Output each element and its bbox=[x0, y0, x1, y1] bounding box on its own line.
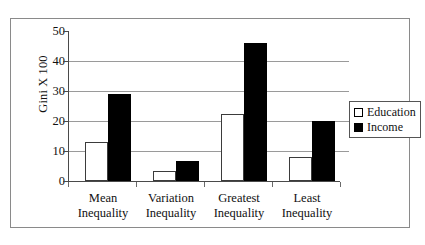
x-axis-category-labels: Mean Inequality Variation Inequality Gre… bbox=[69, 191, 341, 235]
chart-frame: Gini X 100 50 40 30 20 10 0 bbox=[10, 18, 410, 228]
category-label-line1: Variation bbox=[137, 191, 205, 206]
legend-item-income: Income bbox=[354, 120, 420, 135]
category-label-line2: Inequality bbox=[273, 206, 341, 221]
bar-education-least-inequality bbox=[289, 157, 312, 181]
category-label-line2: Inequality bbox=[69, 206, 137, 221]
plot-area bbox=[69, 31, 339, 181]
gridline-30 bbox=[69, 91, 340, 92]
category-label-line2: Inequality bbox=[205, 206, 273, 221]
y-tick-label-0: 0 bbox=[35, 175, 65, 187]
gridline-extension-40 bbox=[339, 61, 349, 62]
gridline-40 bbox=[69, 61, 340, 62]
x-tick-mark-1 bbox=[136, 182, 137, 187]
y-tick-label-30: 30 bbox=[35, 85, 65, 97]
category-label-line1: Greatest bbox=[205, 191, 273, 206]
y-tick-label-50: 50 bbox=[35, 25, 65, 37]
category-label-line1: Least bbox=[273, 191, 341, 206]
y-axis-tick-labels: 50 40 30 20 10 0 bbox=[35, 19, 65, 229]
gridline-extension-20 bbox=[339, 121, 349, 122]
y-tick-label-10: 10 bbox=[35, 145, 65, 157]
legend-item-education: Education bbox=[354, 105, 420, 120]
bar-education-mean-inequality bbox=[85, 142, 108, 181]
white-square-icon bbox=[354, 108, 363, 117]
x-tick-mark-3 bbox=[272, 182, 273, 187]
bar-income-variation-inequality bbox=[176, 161, 199, 181]
x-tick-mark-4 bbox=[340, 182, 341, 187]
category-label-mean-inequality: Mean Inequality bbox=[69, 191, 137, 221]
chart-legend: Education Income bbox=[349, 101, 421, 138]
x-tick-mark-0 bbox=[68, 182, 69, 187]
legend-label-income: Income bbox=[367, 121, 403, 134]
x-tick-mark-2 bbox=[204, 182, 205, 187]
category-label-line1: Mean bbox=[69, 191, 137, 206]
chart-figure: Gini X 100 50 40 30 20 10 0 bbox=[0, 0, 425, 245]
category-label-greatest-inequality: Greatest Inequality bbox=[205, 191, 273, 221]
category-label-variation-inequality: Variation Inequality bbox=[137, 191, 205, 221]
y-tick-label-20: 20 bbox=[35, 115, 65, 127]
bar-income-greatest-inequality bbox=[244, 43, 267, 181]
bar-income-mean-inequality bbox=[108, 94, 131, 181]
y-tick-label-40: 40 bbox=[35, 55, 65, 67]
bar-income-least-inequality bbox=[312, 121, 335, 181]
gridline-extension-30 bbox=[339, 91, 349, 92]
bar-education-greatest-inequality bbox=[221, 114, 244, 182]
legend-label-education: Education bbox=[367, 106, 416, 119]
bar-education-variation-inequality bbox=[153, 171, 176, 182]
category-label-line2: Inequality bbox=[137, 206, 205, 221]
category-label-least-inequality: Least Inequality bbox=[273, 191, 341, 221]
gridline-extension-10 bbox=[339, 151, 349, 152]
black-square-icon bbox=[354, 123, 363, 132]
